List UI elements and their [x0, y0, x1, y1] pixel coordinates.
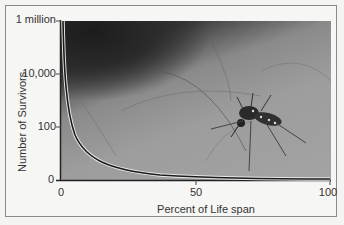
x-tick-100: 100	[313, 186, 343, 198]
y-tick-100: 100	[0, 120, 56, 132]
x-tick-50: 50	[181, 186, 211, 198]
x-tick-0: 0	[46, 186, 76, 198]
y-tick-10000: 10,000	[0, 67, 56, 79]
y-tick-0: 0	[0, 173, 54, 185]
y-tick-1-million: 1 million	[0, 13, 56, 25]
x-axis-title: Percent of Life span	[131, 203, 281, 215]
curve-halo	[63, 21, 330, 179]
survivorship-curve	[63, 21, 330, 179]
y-axis-title: Number of Survivors	[16, 72, 28, 172]
